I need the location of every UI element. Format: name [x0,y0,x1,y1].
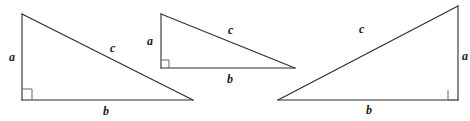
label-b-middle: b [227,73,233,85]
label-a-left: a [9,51,15,63]
triangle-left [22,14,193,100]
label-a-middle: a [147,35,153,47]
triangle-right-hypotenuse-c [278,6,458,100]
label-b-right: b [366,104,372,116]
triangles-svg [0,0,470,121]
triangle-left-hypotenuse-c [22,14,193,100]
triangle-right-right-angle-marker [448,90,458,100]
triangle-middle-right-angle-marker [161,60,169,68]
label-c-right: c [359,23,364,35]
figure-canvas: a c b a c b c a b [0,0,470,121]
label-a-right: a [462,50,468,62]
label-c-middle: c [228,24,233,36]
label-c-left: c [110,42,115,54]
triangle-left-right-angle-marker [22,89,32,100]
triangle-right [278,6,458,100]
label-b-left: b [103,105,109,117]
